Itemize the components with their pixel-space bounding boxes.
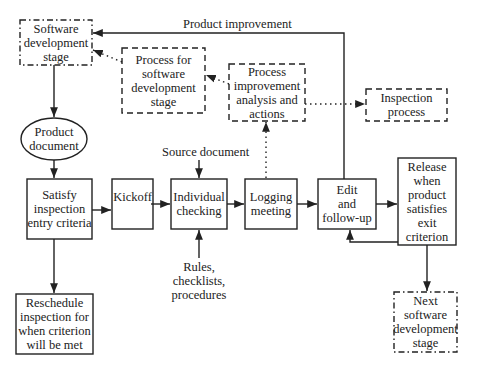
node-text: software: [404, 308, 447, 322]
node-text: product: [408, 188, 446, 202]
node-text: criterion: [406, 230, 448, 244]
node-text: Logging: [250, 190, 292, 204]
node-text: Satisfy: [42, 188, 77, 202]
node-process-for-software-development-stage: Process for software development stage: [122, 48, 205, 113]
node-text: development: [393, 322, 458, 336]
node-text: and: [338, 197, 356, 211]
node-logging-meeting: Logging meeting: [245, 179, 297, 229]
node-text: Reschedule: [26, 296, 84, 310]
node-text: entry criteria: [27, 216, 91, 230]
node-reschedule: Reschedule inspection for when criterion…: [16, 294, 93, 354]
node-text: satisfies: [407, 202, 447, 216]
label-rules-checklists-procedures: Rules, checklists, procedures: [165, 259, 233, 303]
node-next-software-development-stage: Next software development stage: [394, 292, 457, 352]
node-text: will be met: [26, 338, 82, 352]
node-individual-checking: Individual checking: [171, 179, 227, 229]
node-text: Process for: [136, 53, 192, 67]
node-text: document: [29, 139, 78, 153]
node-text: Kickoff: [113, 190, 152, 204]
node-product-document: Product document: [21, 118, 87, 160]
diagram-canvas: Software development stage Process for s…: [0, 0, 478, 370]
node-text: process: [388, 105, 426, 119]
node-text: Release: [408, 160, 447, 174]
node-edit-and-follow-up: Edit and follow-up: [318, 179, 376, 229]
node-inspection-process: Inspection process: [366, 89, 447, 121]
node-text: Inspection: [380, 91, 432, 105]
label-product-improvement: Product improvement: [183, 17, 292, 31]
label-text: procedures: [172, 288, 227, 302]
node-text: stage: [43, 50, 69, 64]
node-text: analysis and: [236, 93, 297, 107]
node-text: follow-up: [322, 211, 371, 225]
node-text: Software: [33, 22, 78, 36]
node-text: Individual: [173, 190, 224, 204]
node-text: Edit: [337, 183, 358, 197]
node-text: development: [24, 36, 89, 50]
node-text: when criterion: [18, 324, 91, 338]
node-text: inspection: [34, 202, 85, 216]
node-text: exit: [418, 216, 437, 230]
label-text: checklists,: [173, 274, 225, 288]
node-text: actions: [249, 107, 284, 121]
label-text: Rules,: [183, 260, 215, 274]
node-process-improvement: Process improvement analysis and actions: [229, 64, 305, 121]
node-text: inspection for: [20, 310, 89, 324]
node-release: Release when product satisfies exit crit…: [398, 158, 456, 245]
node-text: software: [142, 67, 185, 81]
node-kickoff: Kickoff: [112, 179, 153, 215]
node-text: stage: [413, 336, 439, 350]
node-text: meeting: [251, 204, 291, 218]
node-text: development: [131, 81, 196, 95]
node-text: stage: [151, 95, 177, 109]
node-text: Product: [35, 125, 74, 139]
node-software-development-stage: Software development stage: [20, 20, 92, 65]
node-text: checking: [176, 204, 221, 218]
node-text: when: [413, 174, 440, 188]
label-source-document: Source document: [162, 145, 249, 159]
node-text: improvement: [234, 79, 301, 93]
node-satisfy-entry-criteria: Satisfy inspection entry criteria: [27, 179, 92, 239]
node-text: Next: [413, 294, 437, 308]
node-text: Process: [248, 65, 286, 79]
